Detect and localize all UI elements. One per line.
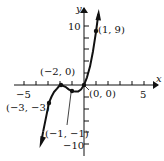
label-point-0-0: (0, 0) [89, 88, 116, 99]
y-tick-label-neg10: −10 [63, 140, 84, 151]
label-point-m3-m3: (−3, −3) [6, 102, 50, 113]
x-tick-label-neg5: −5 [16, 89, 31, 100]
y-axis-label: y [75, 3, 82, 14]
x-tick-label-5: 5 [140, 89, 146, 100]
graph: y x −5 5 10 −10 (1, 9) (−2, 0) (0, 0) (−… [0, 0, 164, 161]
y-tick-label-10: 10 [68, 21, 81, 32]
point-m1-m1 [70, 89, 74, 93]
label-point-m2-0: (−2, 0) [40, 66, 75, 77]
x-axis-label: x [156, 73, 162, 84]
leader-m1-m1 [67, 93, 71, 125]
label-point-m1-m1: (−1, −1) [45, 128, 89, 139]
label-point-1-9: (1, 9) [98, 24, 125, 35]
point-m2-0 [59, 83, 63, 87]
